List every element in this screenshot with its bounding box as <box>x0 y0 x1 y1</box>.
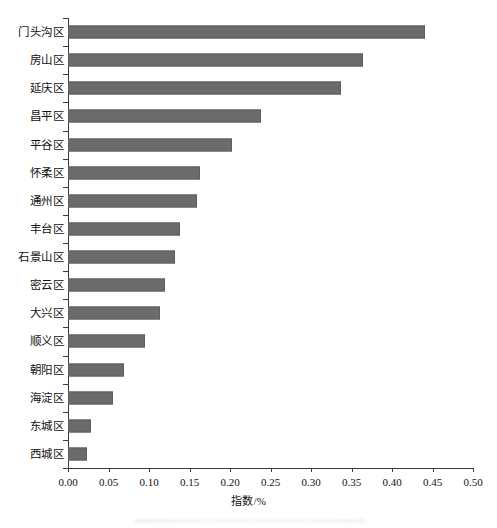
bar-container <box>68 447 87 460</box>
bar <box>68 222 180 235</box>
bar <box>68 110 261 123</box>
bar <box>68 419 91 432</box>
y-axis-tick <box>63 187 68 188</box>
bar-container <box>68 335 145 348</box>
bar <box>68 82 341 95</box>
x-axis-tick-label: 0.25 <box>261 476 280 489</box>
bar-container <box>68 363 124 376</box>
bar-row: 西城区 <box>0 440 497 468</box>
bar-container <box>68 26 425 39</box>
y-axis-tick <box>63 384 68 385</box>
category-label: 朝阳区 <box>30 363 64 376</box>
x-axis-tick <box>311 468 312 472</box>
category-label: 平谷区 <box>30 138 64 151</box>
x-axis-tick-label: 0.20 <box>220 476 239 489</box>
category-label: 通州区 <box>30 194 64 207</box>
x-axis-tick-label: 0.10 <box>139 476 158 489</box>
y-axis-tick <box>63 102 68 103</box>
y-axis-tick <box>63 46 68 47</box>
y-axis-tick <box>63 131 68 132</box>
page-artifact <box>135 519 365 523</box>
bar-container <box>68 166 200 179</box>
y-axis-tick <box>63 356 68 357</box>
x-axis-tick-label: 0.00 <box>58 476 77 489</box>
y-axis-tick <box>63 159 68 160</box>
bar-container <box>68 194 197 207</box>
x-axis-tick-label: 0.50 <box>463 476 482 489</box>
bar-row: 怀柔区 <box>0 159 497 187</box>
x-axis-tick <box>68 468 69 472</box>
category-label: 怀柔区 <box>30 166 64 179</box>
bar-row: 丰台区 <box>0 215 497 243</box>
x-axis-tick-label: 0.15 <box>180 476 199 489</box>
x-axis-tick-label: 0.45 <box>423 476 442 489</box>
bar-row: 平谷区 <box>0 131 497 159</box>
bar <box>68 26 425 39</box>
bar <box>68 138 232 151</box>
bar-container <box>68 279 165 292</box>
category-label: 房山区 <box>30 54 64 67</box>
bar-row: 门头沟区 <box>0 18 497 46</box>
category-label: 密云区 <box>30 279 64 292</box>
bar-container <box>68 251 175 264</box>
x-axis-tick <box>109 468 110 472</box>
category-label: 顺义区 <box>30 335 64 348</box>
bar-row: 密云区 <box>0 271 497 299</box>
y-axis-tick <box>63 18 68 19</box>
x-axis-tick <box>149 468 150 472</box>
bar <box>68 54 363 67</box>
bar <box>68 251 175 264</box>
category-label: 石景山区 <box>18 251 64 264</box>
y-axis-tick <box>63 74 68 75</box>
bar-row: 大兴区 <box>0 299 497 327</box>
category-label: 昌平区 <box>30 110 64 123</box>
category-label: 门头沟区 <box>18 26 64 39</box>
bar-container <box>68 138 232 151</box>
x-axis-tick <box>473 468 474 472</box>
bar <box>68 335 145 348</box>
bar-container <box>68 82 341 95</box>
bar-row: 海淀区 <box>0 384 497 412</box>
y-axis-tick <box>63 271 68 272</box>
x-axis-tick <box>352 468 353 472</box>
bar-row: 石景山区 <box>0 243 497 271</box>
category-label: 大兴区 <box>30 307 64 320</box>
x-axis-tick-label: 0.05 <box>99 476 118 489</box>
y-axis-tick <box>63 327 68 328</box>
bar <box>68 447 87 460</box>
bar-row: 东城区 <box>0 412 497 440</box>
x-axis-tick <box>392 468 393 472</box>
bar-container <box>68 110 261 123</box>
bar <box>68 194 197 207</box>
bar <box>68 279 165 292</box>
bar-row: 朝阳区 <box>0 356 497 384</box>
bar-rows: 门头沟区房山区延庆区昌平区平谷区怀柔区通州区丰台区石景山区密云区大兴区顺义区朝阳… <box>0 18 497 468</box>
bar-row: 房山区 <box>0 46 497 74</box>
bar-row: 延庆区 <box>0 74 497 102</box>
x-axis-tick <box>190 468 191 472</box>
bar-container <box>68 419 91 432</box>
bar <box>68 166 200 179</box>
y-axis-tick <box>63 243 68 244</box>
x-axis-title: 指数/% <box>0 495 497 508</box>
category-label: 丰台区 <box>30 222 64 235</box>
x-axis-tick <box>433 468 434 472</box>
x-axis-tick <box>230 468 231 472</box>
bar-container <box>68 307 160 320</box>
category-label: 东城区 <box>30 419 64 432</box>
bar-container <box>68 391 113 404</box>
x-axis-tick-label: 0.30 <box>301 476 320 489</box>
bar <box>68 307 160 320</box>
category-label: 海淀区 <box>30 391 64 404</box>
y-axis-tick <box>63 299 68 300</box>
bar-row: 昌平区 <box>0 102 497 130</box>
bar <box>68 391 113 404</box>
bar-row: 通州区 <box>0 187 497 215</box>
bar-container <box>68 54 363 67</box>
bar-container <box>68 222 180 235</box>
bar <box>68 363 124 376</box>
y-axis-tick <box>63 412 68 413</box>
x-axis-tick <box>271 468 272 472</box>
bar-row: 顺义区 <box>0 327 497 355</box>
y-axis-tick <box>63 215 68 216</box>
